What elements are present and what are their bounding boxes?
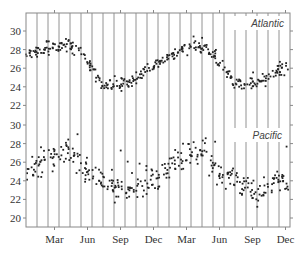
y-tick-label: 26 <box>10 156 22 168</box>
x-tick-label: Jun <box>80 233 96 245</box>
y-tick-label: 30 <box>10 25 22 37</box>
x-tick-label: Sep <box>112 233 129 245</box>
y-tick-label: 22 <box>10 193 21 205</box>
x-tick-label: Dec <box>145 233 163 245</box>
x-tick-label: Mar <box>45 233 64 245</box>
y-tick-label: 24 <box>10 175 22 187</box>
atlantic-label: Atlantic <box>250 18 284 29</box>
x-tick-label: Dec <box>277 233 295 245</box>
y-tick-label: 30 <box>10 119 22 131</box>
data-points <box>25 36 289 208</box>
sst-chart: 2224262830202224262830 MarJunSepDecMarJu… <box>0 0 301 253</box>
y-tick-label: 24 <box>10 81 22 93</box>
x-tick-label: Jun <box>212 233 228 245</box>
y-tick-label: 26 <box>10 62 22 74</box>
y-tick-label: 22 <box>10 99 21 111</box>
pacific-label: Pacific <box>253 130 282 141</box>
y-axis: 2224262830202224262830 <box>10 25 293 224</box>
y-tick-label: 28 <box>10 44 22 56</box>
x-tick-label: Sep <box>244 233 261 245</box>
x-tick-label: Mar <box>177 233 196 245</box>
y-tick-label: 20 <box>10 212 22 224</box>
y-tick-label: 28 <box>10 138 22 150</box>
